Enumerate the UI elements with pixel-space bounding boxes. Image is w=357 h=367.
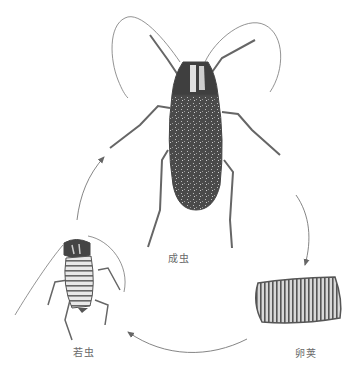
adult-cockroach-illustration [110, 17, 281, 248]
arrow-adult-to-ootheca [296, 195, 309, 265]
nymph-illustration [15, 236, 125, 340]
arrow-ootheca-to-nymph [128, 332, 247, 352]
label-ootheca: 卵荚 [295, 345, 317, 360]
label-adult: 成虫 [168, 250, 190, 265]
diagram-canvas [0, 0, 357, 367]
life-cycle-diagram: 成虫 卵荚 若虫 [0, 0, 357, 367]
ootheca-illustration [256, 277, 341, 323]
arrow-nymph-to-adult [77, 157, 104, 220]
label-nymph: 若虫 [73, 344, 95, 359]
